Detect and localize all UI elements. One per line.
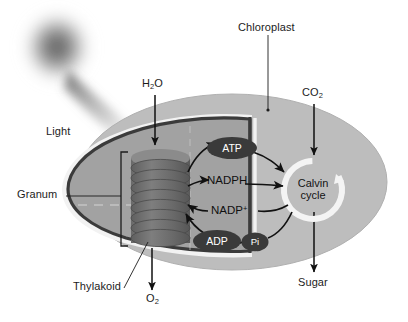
water-h: H <box>142 77 150 89</box>
granum-stack <box>131 149 190 247</box>
nadp-superscript: + <box>243 204 247 213</box>
label-light: Light <box>46 126 70 138</box>
nadph-label: NADPH <box>207 174 247 186</box>
label-oxygen: O2 <box>146 293 159 306</box>
water-o: O <box>154 77 163 89</box>
calvin-line-1: Calvin <box>283 177 343 189</box>
adp-label: ADP <box>192 235 242 247</box>
co2-subscript: 2 <box>319 91 323 100</box>
pi-label: Pi <box>242 236 268 247</box>
co2-co: CO <box>302 86 319 98</box>
calvin-line-2: cycle <box>283 189 343 201</box>
nadp-text: NADP <box>211 204 243 216</box>
label-water: H2O <box>142 78 163 91</box>
photosynthesis-diagram: Chloroplast Light Granum Thylakoid Sugar… <box>0 0 408 322</box>
label-carbon-dioxide: CO2 <box>302 87 323 100</box>
diagram-canvas <box>0 0 408 322</box>
oxygen-subscript: 2 <box>155 297 159 306</box>
label-chloroplast: Chloroplast <box>238 22 295 34</box>
label-thylakoid: Thylakoid <box>73 281 121 293</box>
calvin-cycle-label: Calvin cycle <box>283 177 343 201</box>
label-granum: Granum <box>17 189 57 201</box>
label-sugar: Sugar <box>298 277 328 289</box>
nadp-label: NADP+ <box>211 204 247 216</box>
oxygen-o: O <box>146 292 155 304</box>
atp-label: ATP <box>207 142 257 154</box>
